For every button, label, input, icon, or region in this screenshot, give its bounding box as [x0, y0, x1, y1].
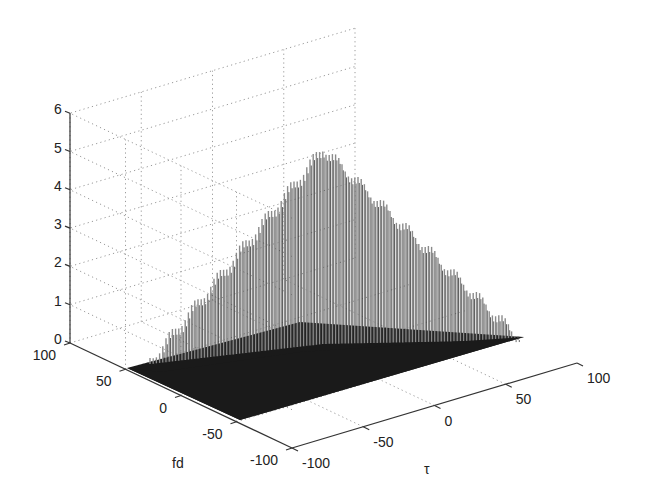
fd-tick-label: 50	[96, 373, 112, 389]
tau-tick	[292, 448, 298, 451]
z-tick-label: 6	[54, 101, 62, 117]
z-tick-labels: 0123456	[54, 101, 62, 347]
z-tick	[65, 188, 70, 190]
grid-line	[70, 67, 355, 257]
surface	[127, 152, 524, 420]
fd-tick	[120, 369, 126, 371]
fd-tick	[175, 396, 181, 398]
fd-tick	[64, 343, 70, 345]
z-tick-label: 1	[54, 293, 62, 309]
tau-tick-label: 0	[445, 413, 453, 429]
fd-tick	[286, 448, 292, 450]
surface-plot: 0123456 100500-50-100 -100-50050100 fd τ	[0, 0, 646, 500]
axes	[64, 111, 583, 451]
tau-tick	[435, 406, 441, 409]
z-tick-label: 4	[54, 178, 62, 194]
tau-tick-label: 100	[587, 370, 611, 386]
fd-tick-label: -100	[250, 452, 278, 468]
tau-tick-label: 50	[516, 391, 532, 407]
tau-tick-label: -100	[302, 455, 330, 471]
tau-axis-label: τ	[424, 461, 430, 477]
tau-tick-label: -50	[373, 434, 393, 450]
fd-tick	[231, 422, 237, 424]
z-tick	[65, 150, 70, 152]
z-tick	[65, 303, 70, 305]
z-tick	[65, 111, 70, 113]
z-tick-label: 2	[54, 254, 62, 270]
tau-tick	[506, 384, 512, 387]
fd-tick-label: -50	[202, 426, 222, 442]
fd-tick-label: 0	[159, 400, 167, 416]
z-tick-label: 5	[54, 140, 62, 156]
fd-axis-label: fd	[172, 455, 184, 471]
fd-tick-label: 100	[33, 347, 57, 363]
z-tick	[65, 264, 70, 266]
z-tick-label: 3	[54, 216, 62, 232]
tau-tick	[577, 363, 583, 366]
z-tick-label: 0	[54, 331, 62, 347]
tau-tick	[363, 427, 369, 430]
z-tick	[65, 226, 70, 228]
